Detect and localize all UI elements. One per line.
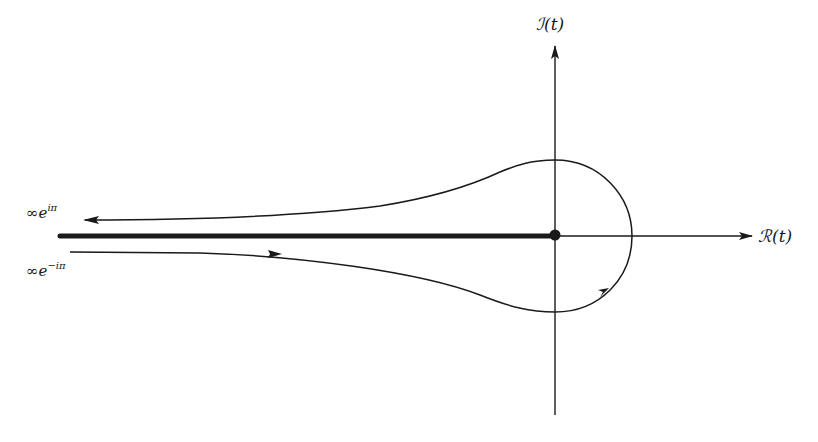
upper-end-exponent: iπ [47,202,57,213]
imaginary-axis-label: ℐ(t) [536,14,564,34]
upper-end-label: ∞eiπ [26,204,57,222]
origin-dot [550,230,561,241]
contour-upper-branch [85,160,555,220]
lower-end-exponent: −iπ [47,260,65,271]
contour-diagram [0,0,818,442]
lower-end-base: ∞e [26,262,47,280]
lower-end-label: ∞e−iπ [26,262,66,280]
contour-lower-branch [70,252,555,312]
real-axis-label: ℛ(t) [758,226,792,246]
upper-end-base: ∞e [26,204,47,222]
